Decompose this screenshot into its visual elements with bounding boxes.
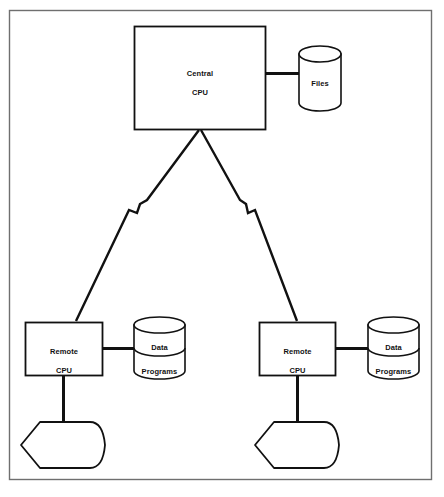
node-files[interactable] bbox=[299, 46, 341, 111]
diagram-svg bbox=[0, 0, 444, 497]
diagram-canvas: Central CPU Files Remote CPU Remote CPU … bbox=[0, 0, 444, 497]
node-remote-cpu-left[interactable] bbox=[26, 323, 103, 376]
node-central-cpu[interactable] bbox=[135, 27, 266, 130]
node-store-right[interactable] bbox=[368, 317, 419, 379]
node-store-left[interactable] bbox=[134, 317, 185, 379]
node-remote-cpu-right[interactable] bbox=[260, 323, 336, 376]
node-terminal-right[interactable] bbox=[255, 422, 339, 468]
node-terminal-left[interactable] bbox=[21, 422, 105, 468]
